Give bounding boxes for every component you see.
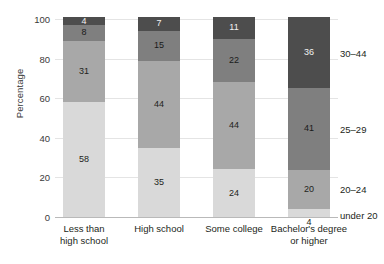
y-tick-label-60: 60 xyxy=(18,93,50,104)
bar-segment[interactable]: 4 xyxy=(63,17,105,25)
series-label-3: 30–44 xyxy=(340,47,366,58)
bar-segment[interactable]: 22 xyxy=(213,39,255,83)
bar-segment[interactable]: 58 xyxy=(63,102,105,217)
bar-segment[interactable]: 41 xyxy=(288,88,330,169)
bar-segment[interactable]: 44 xyxy=(213,82,255,169)
series-label-2: 25–29 xyxy=(340,123,366,134)
y-axis-tick-labels: 020406080100 xyxy=(18,19,50,217)
series-label-0: under 20 xyxy=(340,210,378,221)
bar-segment-value-label: 41 xyxy=(304,124,314,133)
bar-segment[interactable]: 36 xyxy=(288,17,330,88)
y-tick-label-20: 20 xyxy=(18,172,50,183)
bar-3[interactable]: 3641204 xyxy=(288,17,330,217)
bar-segment[interactable]: 8 xyxy=(63,25,105,41)
bar-0[interactable]: 483158 xyxy=(63,17,105,217)
x-category-label-line: or higher xyxy=(254,235,364,247)
bar-segment[interactable]: 44 xyxy=(138,61,180,148)
bar-segment-value-label: 24 xyxy=(229,189,239,198)
x-category-label-line: high school xyxy=(29,235,139,247)
y-tick-label-0: 0 xyxy=(18,212,50,223)
bar-segment-value-label: 22 xyxy=(229,56,239,65)
bar-segment-value-label: 44 xyxy=(154,100,164,109)
bar-segment[interactable]: 20 xyxy=(288,170,330,210)
bar-segment-value-label: 44 xyxy=(229,121,239,130)
bar-segment[interactable]: 4 xyxy=(288,209,330,217)
series-label-1: 20–24 xyxy=(340,184,366,195)
x-axis-category-labels: Less thanhigh schoolHigh schoolSome coll… xyxy=(55,223,338,263)
y-tick-label-100: 100 xyxy=(18,14,50,25)
y-tick-label-80: 80 xyxy=(18,53,50,64)
bar-segment-value-label: 15 xyxy=(154,41,164,50)
bar-segment-value-label: 35 xyxy=(154,178,164,187)
bar-segment[interactable]: 24 xyxy=(213,169,255,217)
bar-segment-value-label: 36 xyxy=(304,48,314,57)
bar-segment-value-label: 58 xyxy=(79,155,89,164)
series-legend-labels: under 2020–2425–2930–44 xyxy=(340,19,384,224)
bar-segment[interactable]: 7 xyxy=(138,17,180,31)
bar-segment[interactable]: 15 xyxy=(138,31,180,61)
x-category-label-3: Bachelor's degreeor higher xyxy=(254,223,364,246)
bar-segment-value-label: 8 xyxy=(81,28,86,37)
bar-segment-value-label: 31 xyxy=(79,67,89,76)
bar-segment[interactable]: 31 xyxy=(63,41,105,102)
plot-area: 4831587154435112244243641204 xyxy=(55,19,338,217)
bar-segment-value-label: 11 xyxy=(229,23,238,32)
bar-segment[interactable]: 11 xyxy=(213,17,255,39)
bar-segment-value-label: 20 xyxy=(304,185,314,194)
y-tick-label-40: 40 xyxy=(18,132,50,143)
bar-segment-value-label: 7 xyxy=(156,19,161,28)
stacked-bar-chart: Percentage 020406080100 4831587154435112… xyxy=(0,0,384,264)
bar-2[interactable]: 11224424 xyxy=(213,17,255,217)
bar-segment[interactable]: 35 xyxy=(138,148,180,217)
bar-1[interactable]: 7154435 xyxy=(138,17,180,217)
x-category-label-line: Bachelor's degree xyxy=(254,223,364,235)
